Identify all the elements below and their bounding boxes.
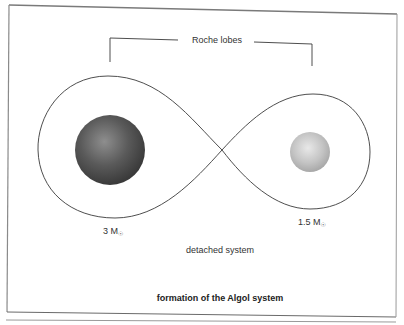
secondary-mass-label: 1.5 M☉: [298, 218, 326, 228]
secondary-star: [290, 132, 330, 172]
roche-lobe-diagram: [0, 0, 404, 325]
system-state-label: detached system: [186, 246, 254, 255]
figure-caption: formation of the Algol system: [157, 294, 284, 303]
primary-mass-label: 3 M☉: [103, 227, 123, 237]
primary-star: [75, 115, 145, 185]
roche-lobes-label: Roche lobes: [189, 36, 245, 45]
solar-mass-symbol: ☉: [118, 231, 123, 237]
primary-mass-value: 3 M: [103, 226, 118, 236]
solar-mass-symbol: ☉: [321, 222, 326, 228]
secondary-mass-value: 1.5 M: [298, 217, 321, 227]
figure-frame: [6, 5, 397, 322]
